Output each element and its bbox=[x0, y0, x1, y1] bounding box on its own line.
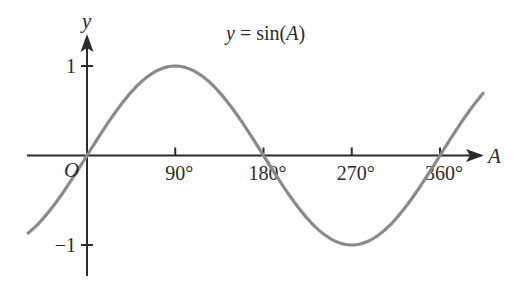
x-tick-label: 270° bbox=[337, 162, 375, 184]
y-tick-label: 1 bbox=[66, 55, 76, 77]
x-tick-label: 90° bbox=[165, 162, 193, 184]
chart-title: y = sin(A) bbox=[224, 22, 305, 45]
title-arg: A bbox=[284, 22, 299, 44]
origin-label: O bbox=[64, 158, 79, 182]
x-axis-label: A bbox=[486, 144, 501, 168]
title-eq: = sin( bbox=[235, 22, 287, 45]
x-ticks: 90°180°270°360° bbox=[165, 148, 463, 184]
y-tick-label: −1 bbox=[55, 234, 76, 256]
y-axis-label: y bbox=[80, 9, 92, 33]
title-lhs: y bbox=[224, 22, 235, 45]
sine-chart: 90°180°270°360° 1−1 y A O y = sin(A) bbox=[0, 0, 525, 289]
title-close: ) bbox=[298, 22, 305, 45]
